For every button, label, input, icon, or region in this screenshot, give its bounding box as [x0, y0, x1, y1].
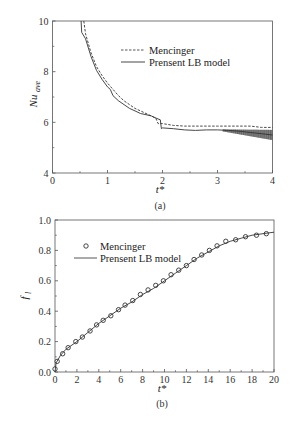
data-point-marker: [60, 352, 64, 356]
x-tick-label: 8: [140, 374, 145, 385]
panel-a-legend: Mencinger Prensent LB model: [121, 45, 230, 68]
panel-b-caption: (b): [156, 398, 168, 410]
panel-b-x-label: t*: [158, 382, 167, 394]
x-tick-label: 20: [269, 374, 279, 385]
x-tick-label: 14: [203, 374, 213, 385]
y-tick-label: 8: [44, 66, 49, 77]
y-tick-label: 0.2: [39, 336, 52, 347]
panel-b-chart: 02468101214161820 0.00.20.40.60.81.0 Men…: [18, 215, 279, 411]
panel-b-legend: Mencinger Prensent LB model: [74, 241, 181, 264]
x-tick-label: 4: [96, 374, 101, 385]
x-tick-label: 3: [215, 175, 220, 186]
x-tick-label: 0: [50, 175, 55, 186]
x-tick-label: 0: [53, 374, 58, 385]
x-tick-label: 16: [225, 374, 235, 385]
y-tick-label: 1.0: [39, 215, 52, 226]
plot-a-frame: [53, 21, 273, 173]
y-tick-label: 0.6: [39, 275, 52, 286]
figure: 01234 46810 Mencinger Prensent LB model …: [0, 0, 295, 426]
ylabel-sub: l: [24, 291, 33, 294]
ylabel-sub: ave: [33, 80, 42, 92]
series-line: [84, 21, 273, 127]
legend-label-lb-model: Prensent LB model: [149, 57, 230, 68]
legend-label-mencinger: Mencinger: [149, 45, 195, 56]
y-tick-label: 10: [39, 16, 49, 27]
x-tick-label: 1: [105, 175, 110, 186]
y-tick-label: 4: [44, 168, 49, 179]
legend-circle-marker-icon: [84, 244, 88, 248]
x-tick-label: 4: [270, 175, 275, 186]
panel-a-x-label: t*: [156, 183, 165, 195]
y-tick-label: 0.0: [39, 367, 52, 378]
panel-a-y-label: Nu ave: [27, 80, 42, 108]
ylabel-main: Nu: [27, 94, 39, 108]
panel-a-chart: 01234 46810 Mencinger Prensent LB model …: [27, 16, 275, 213]
legend-label-lb-model: Prensent LB model: [100, 253, 181, 264]
x-tick-label: 2: [74, 374, 79, 385]
panel-a-y-ticks: 46810: [39, 16, 56, 179]
y-tick-label: 0.8: [39, 245, 52, 256]
y-tick-label: 0.4: [39, 306, 52, 317]
noise-band: [223, 129, 272, 140]
panel-b-y-label: f l: [18, 291, 33, 300]
x-tick-label: 6: [118, 374, 123, 385]
panel-a-series: [81, 21, 272, 140]
x-tick-label: 12: [181, 374, 191, 385]
legend-label-mencinger: Mencinger: [100, 241, 146, 252]
series-line: [81, 21, 272, 135]
plot-b-frame: [55, 220, 274, 372]
x-tick-label: 18: [247, 374, 257, 385]
y-tick-label: 6: [44, 117, 49, 128]
panel-a-caption: (a): [154, 200, 165, 212]
ylabel-main: f: [18, 295, 30, 300]
